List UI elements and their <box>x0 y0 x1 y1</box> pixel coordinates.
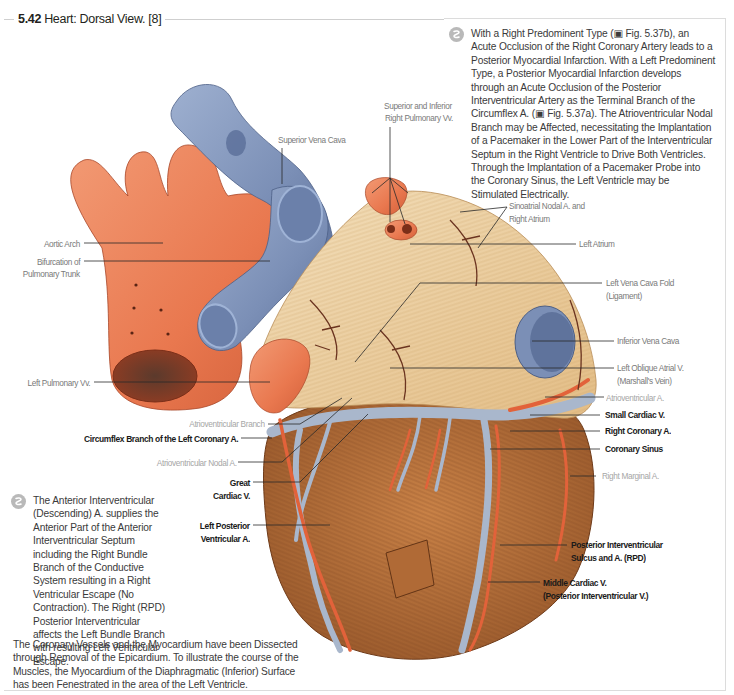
label-circumflex-branch: Circumflex Branch of the Left Coronary A… <box>84 433 238 445</box>
label-left-post-ventricular-2: Ventricular A. <box>201 533 250 545</box>
label-great-cardiac-1: Great <box>230 477 250 489</box>
label-av-nodal-a: Atrioventricular Nodal A. <box>157 457 237 469</box>
label-bifurcation-2: Pulmonary Trunk <box>23 268 80 280</box>
clinical-note-top-text: With a Right Predominent Type (▣ Fig. 5.… <box>471 28 715 200</box>
label-left-post-ventricular-1: Left Posterior <box>200 520 250 532</box>
label-left-vena-cava-fold-1: Left Vena Cava Fold <box>606 277 674 289</box>
label-left-atrium: Left Atrium <box>579 238 615 250</box>
label-aortic-arch: Aortic Arch <box>44 238 80 250</box>
label-post-interventricular-1: Posterior Interventricular <box>571 539 663 551</box>
label-atrioventricular-branch: Atrioventricular Branch <box>190 418 265 430</box>
clinical-note-top: With a Right Predominent Type (▣ Fig. 5.… <box>471 27 716 201</box>
label-middle-cardiac-1: Middle Cardiac V. <box>543 577 607 589</box>
figure-caption: The Coronary Vessels and the Myocardium … <box>13 638 303 692</box>
clinical-note-icon <box>11 494 26 509</box>
label-atrioventricular-a: Atrioventricular A. <box>606 392 664 404</box>
label-left-oblique-atrial-1: Left Oblique Atrial V. <box>617 362 684 374</box>
label-left-pulmonary-vv: Left Pulmonary Vv. <box>27 377 90 389</box>
label-coronary-sinus: Coronary Sinus <box>605 443 663 455</box>
label-bifurcation-1: Bifurcation of <box>37 256 80 268</box>
label-sinoatrial-2: Right Atrium <box>509 213 550 225</box>
label-right-coronary-a: Right Coronary A. <box>605 425 671 437</box>
label-inferior-vena-cava: Inferior Vena Cava <box>617 335 679 347</box>
label-right-pulmonary-vv-2: Right Pulmonary Vv. <box>385 112 453 124</box>
label-left-vena-cava-fold-2: (Ligament) <box>606 290 642 302</box>
label-sinoatrial-1: Sinoatrial Nodal A. and <box>509 200 585 212</box>
label-middle-cardiac-2: (Posterior Interventricular V.) <box>543 590 648 602</box>
label-right-marginal-a: Right Marginal A. <box>602 470 659 482</box>
label-great-cardiac-2: Cardiac V. <box>213 490 250 502</box>
label-superior-vena-cava: Superior Vena Cava <box>278 134 346 146</box>
ventricles-myocardium <box>264 392 595 659</box>
label-post-interventricular-2: Sulcus and A. (RPD) <box>571 552 646 564</box>
label-small-cardiac-v: Small Cardiac V. <box>605 409 665 421</box>
label-right-pulmonary-vv-1: Superior and Inferior <box>384 100 452 112</box>
clinical-note-icon <box>449 27 464 42</box>
label-left-oblique-atrial-2: (Marshall's Vein) <box>617 375 672 387</box>
